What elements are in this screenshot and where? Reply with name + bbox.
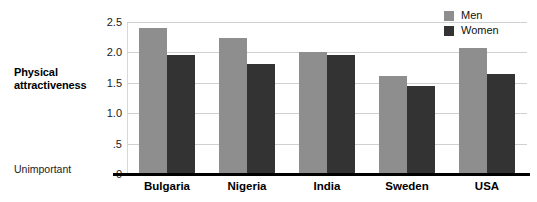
plot-area bbox=[127, 22, 527, 174]
x-axis-label-bulgaria: Bulgaria bbox=[139, 180, 195, 192]
bar-nigeria-women bbox=[247, 64, 275, 174]
bar-usa-women bbox=[487, 74, 515, 174]
bar-usa-men bbox=[459, 48, 487, 174]
bar-group bbox=[299, 22, 355, 174]
y-axis-tick-label: 2.5 bbox=[98, 17, 122, 28]
y-axis-zero-caption: Unimportant bbox=[14, 163, 100, 175]
y-axis-tick-label: 1.0 bbox=[98, 108, 122, 119]
bar-group bbox=[459, 22, 515, 174]
legend: MenWomen bbox=[444, 8, 499, 38]
x-axis-label-sweden: Sweden bbox=[379, 180, 435, 192]
x-axis-label-usa: USA bbox=[459, 180, 515, 192]
y-axis-tick-label: 1.5 bbox=[98, 78, 122, 89]
bar-bulgaria-women bbox=[167, 55, 195, 174]
bar-nigeria-men bbox=[219, 38, 247, 174]
y-axis-tick-label: 2.0 bbox=[98, 47, 122, 58]
bar-india-men bbox=[299, 52, 327, 174]
legend-label: Women bbox=[461, 25, 499, 36]
bar-chart: Physical attractiveness Unimportant 0.51… bbox=[0, 0, 537, 202]
bar-sweden-men bbox=[379, 76, 407, 174]
x-axis-baseline bbox=[113, 173, 530, 176]
legend-item: Women bbox=[444, 23, 499, 38]
bar-sweden-women bbox=[407, 86, 435, 174]
x-axis-label-nigeria: Nigeria bbox=[219, 180, 275, 192]
legend-swatch-women bbox=[444, 26, 454, 36]
x-axis-label-india: India bbox=[299, 180, 355, 192]
y-axis-title: Physical attractiveness bbox=[14, 66, 100, 92]
bar-bulgaria-men bbox=[139, 28, 167, 174]
bar-group bbox=[379, 22, 435, 174]
y-axis-tick-labels: 0.51.01.52.02.5 bbox=[96, 0, 122, 202]
bar-india-women bbox=[327, 55, 355, 174]
bar-group bbox=[139, 22, 195, 174]
legend-label: Men bbox=[461, 10, 482, 21]
bar-group bbox=[219, 22, 275, 174]
y-axis-tick-label: .5 bbox=[98, 139, 122, 150]
legend-swatch-men bbox=[444, 11, 454, 21]
legend-item: Men bbox=[444, 8, 499, 23]
